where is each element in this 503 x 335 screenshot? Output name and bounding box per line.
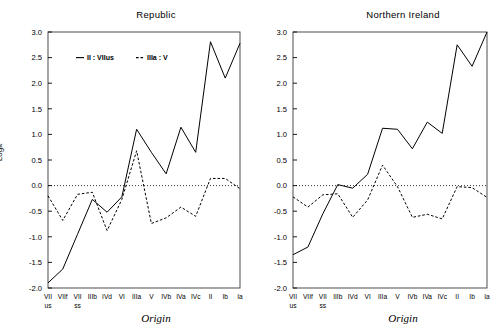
y-tick-label: -2.0 (29, 284, 42, 293)
y-tick-label: 2.5 (276, 53, 287, 62)
y-tick-label: -1.0 (274, 233, 287, 242)
y-tick-label: 0.0 (31, 181, 42, 190)
x-tick-label: II (209, 293, 213, 300)
x-tick-label: IVd (102, 293, 112, 300)
y-tick-label: 3.0 (276, 28, 287, 37)
x-tick-label: IVb (161, 293, 171, 300)
x-tick-label: Ib (469, 293, 475, 300)
legend-label-solid: II : VIIus (87, 54, 114, 61)
x-tick-label: II (455, 293, 459, 300)
x-tick-label: IIIb (333, 293, 342, 300)
y-tick-label: 0.0 (276, 181, 287, 190)
x-tick-label-sub: us (290, 302, 298, 309)
y-tick-label: 0.5 (276, 156, 287, 165)
x-tick-label: VII (74, 293, 82, 300)
x-tick-label: IIIa (132, 293, 141, 300)
panel-northern-ireland: Northern Ireland 3.02.52.01.51.00.50.0-0… (251, 0, 503, 335)
x-tick-label-sub: us (45, 302, 53, 309)
x-tick-label: V (395, 293, 400, 300)
y-tick-label: 3.0 (31, 28, 42, 37)
y-tick-label: 2.5 (31, 53, 42, 62)
series-line-solid (293, 32, 487, 255)
x-tick-label: V (149, 293, 154, 300)
y-tick-label: -0.5 (274, 207, 287, 216)
x-tick-label: IVc (437, 293, 447, 300)
x-tick-label: VII (319, 293, 327, 300)
x-tick-label: VII (44, 293, 52, 300)
x-tick-label: IIIa (378, 293, 387, 300)
x-tick-label: IVa (423, 293, 433, 300)
y-tick-label: 1.0 (31, 130, 42, 139)
figure-canvas: Republic Logit 3.02.52.01.51.00.50.0-0.5… (0, 0, 503, 335)
series-line-dashed (293, 165, 487, 219)
y-tick-label: 2.0 (276, 79, 287, 88)
x-tick-label: VIIf (303, 293, 313, 300)
x-tick-label: IVd (348, 293, 358, 300)
x-tick-label: VII (289, 293, 297, 300)
y-tick-label: 1.0 (276, 130, 287, 139)
series-line-dashed (48, 151, 240, 231)
x-tick-label: VIIf (58, 293, 68, 300)
x-tick-label: Ib (222, 293, 228, 300)
y-tick-label: -1.0 (29, 233, 42, 242)
y-tick-label: 1.5 (276, 105, 287, 114)
y-tick-label: 1.5 (31, 105, 42, 114)
x-tick-label: IVc (191, 293, 201, 300)
x-tick-label: IVb (407, 293, 417, 300)
x-axis-label-left: Origin (0, 312, 282, 324)
x-tick-label-sub: ss (320, 302, 327, 309)
legend-label-dashed: IIIa : V (147, 54, 168, 61)
x-tick-label-sub: ss (74, 302, 81, 309)
x-tick-label: VI (119, 293, 125, 300)
x-tick-label: IIIb (88, 293, 97, 300)
plot-area-republic: 3.02.52.01.51.00.50.0-0.5-1.0-1.5-2.0VII… (0, 0, 252, 310)
series-line-solid (48, 42, 240, 283)
y-tick-label: -2.0 (274, 284, 287, 293)
y-tick-label: -1.5 (274, 258, 287, 267)
plot-area-northern-ireland: 3.02.52.01.51.00.50.0-0.5-1.0-1.5-2.0VII… (251, 0, 503, 310)
y-tick-label: -1.5 (29, 258, 42, 267)
y-tick-label: 2.0 (31, 79, 42, 88)
panel-republic: Republic Logit 3.02.52.01.51.00.50.0-0.5… (0, 0, 252, 335)
y-tick-label: -0.5 (29, 207, 42, 216)
plot-frame (293, 32, 487, 288)
x-tick-label: Ia (484, 293, 490, 300)
x-tick-label: Ia (237, 293, 243, 300)
x-tick-label: VI (364, 293, 370, 300)
y-tick-label: 0.5 (31, 156, 42, 165)
x-axis-label-right: Origin (251, 312, 503, 324)
x-tick-label: IVa (176, 293, 186, 300)
plot-frame (48, 32, 240, 288)
